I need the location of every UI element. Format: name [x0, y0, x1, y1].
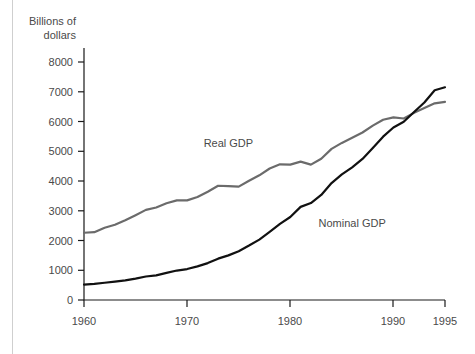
y-tick-marks [78, 62, 84, 300]
x-tick-label-1970: 1970 [175, 315, 199, 327]
y-tick-label-8000: 8000 [49, 56, 73, 68]
y-tick-label-4000: 4000 [49, 175, 73, 187]
series-layer [84, 87, 445, 284]
y-tick-label-2000: 2000 [49, 235, 73, 247]
y-tick-label-3000: 3000 [49, 205, 73, 217]
gdp-line-chart: Billions of dollars 0 1000 2000 3000 400… [0, 0, 475, 354]
series-label-real-gdp: Real GDP [204, 137, 254, 149]
x-tick-label-1995: 1995 [433, 315, 457, 327]
series-label-nominal-gdp: Nominal GDP [319, 217, 386, 229]
chart-figure: Billions of dollars 0 1000 2000 3000 400… [0, 0, 475, 354]
y-tick-label-1000: 1000 [49, 264, 73, 276]
y-tick-label-0: 0 [67, 294, 73, 306]
y-axis-title-line2: dollars [44, 29, 77, 41]
series-path-real-gdp [84, 102, 445, 233]
x-tick-label-1990: 1990 [381, 315, 405, 327]
y-tick-label-6000: 6000 [49, 116, 73, 128]
y-axis-title-line1: Billions of [29, 15, 77, 27]
x-tick-label-1960: 1960 [72, 315, 96, 327]
axis-lines [84, 48, 445, 300]
x-tick-label-1980: 1980 [278, 315, 302, 327]
y-tick-label-5000: 5000 [49, 145, 73, 157]
x-tick-marks [84, 300, 445, 307]
y-tick-label-7000: 7000 [49, 86, 73, 98]
